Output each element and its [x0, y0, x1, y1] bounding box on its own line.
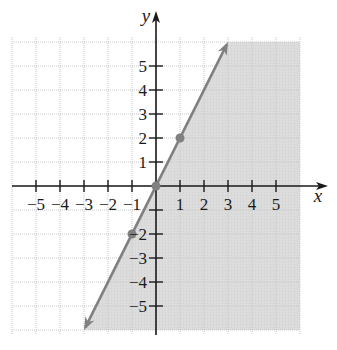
x-tick-label: 5: [272, 195, 281, 214]
x-tick-label: −1: [123, 195, 141, 214]
inequality-graph: −5−4−3−2−112345−5−4−3−212345xy: [0, 0, 337, 350]
y-tick-label: 4: [139, 81, 148, 100]
y-tick-label: −5: [129, 297, 147, 316]
x-tick-label: 4: [248, 195, 257, 214]
data-point: [152, 182, 161, 191]
x-tick-label: −2: [99, 195, 117, 214]
y-tick-label: −4: [129, 273, 148, 292]
x-tick-label: −5: [27, 195, 45, 214]
x-tick-label: −4: [51, 195, 70, 214]
y-tick-label: 5: [139, 57, 148, 76]
x-axis-label: x: [313, 185, 323, 206]
y-axis-label: y: [140, 5, 151, 26]
x-tick-label: 3: [224, 195, 233, 214]
y-tick-label: 3: [139, 105, 148, 124]
y-tick-label: −2: [129, 225, 147, 244]
data-point: [176, 134, 185, 143]
x-tick-label: 1: [176, 195, 185, 214]
y-tick-label: −3: [129, 249, 147, 268]
y-tick-label: 2: [139, 129, 148, 148]
x-tick-label: 2: [200, 195, 209, 214]
y-tick-label: 1: [139, 153, 148, 172]
x-tick-label: −3: [75, 195, 93, 214]
